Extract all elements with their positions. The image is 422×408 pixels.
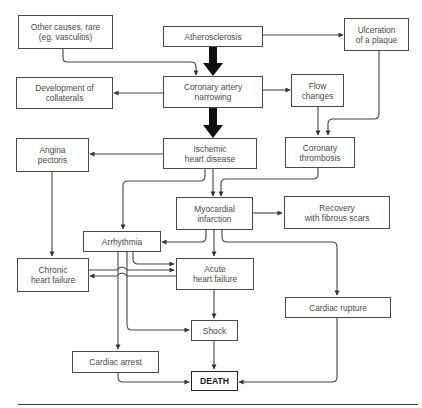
- node-shock: Shock: [191, 320, 238, 341]
- node-flow-changes: Flow changes: [291, 74, 344, 107]
- edge-thrombosis-mi: [221, 167, 318, 196]
- node-collaterals: Development of collaterals: [16, 77, 113, 109]
- node-ihd: Ischemic heart disease: [163, 138, 257, 169]
- node-thrombosis: Coronary thrombosis: [285, 137, 355, 168]
- node-chronic-hf: Chronic heart failure: [17, 258, 89, 292]
- node-mi: Myocardial infarction: [176, 197, 253, 230]
- edge-chronic-acute: [88, 267, 174, 270]
- edge-arrhythmia-acute: [133, 251, 174, 264]
- edge-other-narrowing: [63, 48, 196, 75]
- node-ulceration: Ulceration of a plaque: [344, 18, 409, 51]
- edge-arrest-death: [118, 372, 189, 382]
- node-other-causes: Other causes, rare (eg. vasculitis): [18, 15, 113, 49]
- node-acute-hf: Acute heart failure: [176, 258, 254, 290]
- node-atherosclerosis: Atherosclerosis: [163, 26, 263, 47]
- node-angina: Angina pectoris: [16, 138, 89, 172]
- edge-rupture-death: [239, 317, 337, 382]
- node-arrhythmia: Arrhythmia: [83, 231, 161, 252]
- node-death: DEATH: [191, 371, 238, 391]
- edge-mi-arrhythmia: [162, 229, 206, 242]
- node-narrowing: Coronary artery narrowing: [163, 76, 263, 108]
- bottom-rule: [18, 404, 418, 405]
- edge-acute-chronic: [90, 273, 176, 276]
- node-recovery: Recovery with fibrous scars: [284, 196, 390, 229]
- thick-arrow-atherosclerosis-narrowing: [203, 46, 223, 76]
- thick-arrow-narrowing-ihd: [203, 107, 223, 138]
- node-rupture: Cardiac rupture: [285, 297, 391, 318]
- node-arrest: Cardiac arrest: [72, 351, 159, 373]
